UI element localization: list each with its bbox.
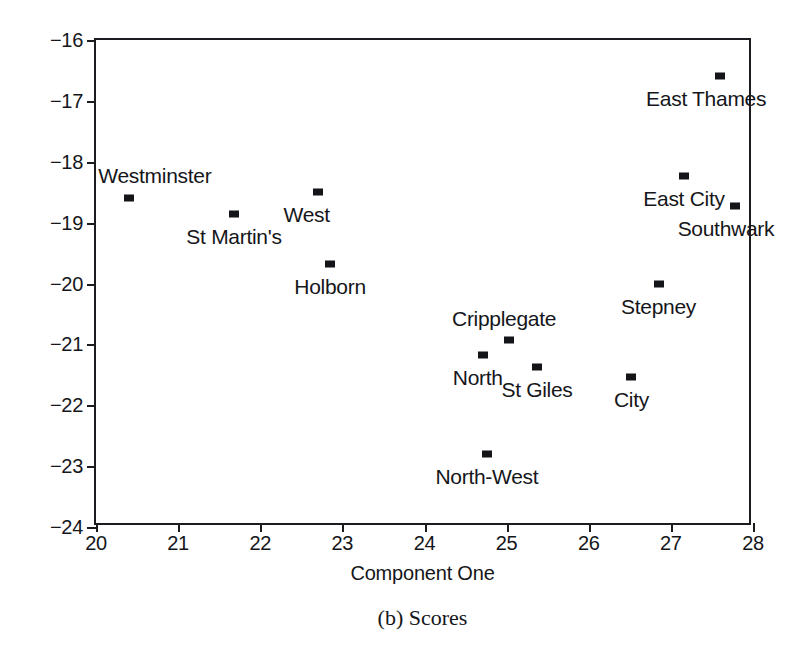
y-tick-label: −19: [50, 211, 83, 234]
y-tick-label: −21: [50, 333, 83, 356]
x-tick-label: 24: [414, 532, 436, 555]
data-point-label: St Giles: [501, 379, 572, 400]
data-point-marker: [313, 189, 323, 196]
y-tick-mark: [87, 405, 96, 407]
data-point-marker: [626, 373, 636, 380]
plot-area: −16−17−18−19−20−21−22−23−24 202122232425…: [94, 38, 751, 525]
data-point-label: City: [614, 389, 649, 410]
figure-caption: (b) Scores: [94, 605, 751, 631]
data-point-marker: [715, 72, 725, 79]
x-tick-mark: [589, 523, 591, 532]
x-tick-label: 21: [167, 532, 189, 555]
y-tick-mark: [87, 466, 96, 468]
x-tick-label: 25: [496, 532, 518, 555]
x-tick-mark: [260, 523, 262, 532]
y-tick-mark: [87, 284, 96, 286]
y-tick-mark: [87, 101, 96, 103]
y-tick-label: −23: [50, 455, 83, 478]
x-tick-mark: [671, 523, 673, 532]
data-point-label: Stepney: [621, 296, 696, 317]
y-tick-mark: [87, 223, 96, 225]
data-point-marker: [124, 194, 134, 201]
y-tick-mark: [87, 527, 96, 529]
y-tick-mark: [87, 344, 96, 346]
data-point-label: St Martin's: [186, 226, 281, 247]
x-axis-title: Component One: [94, 562, 751, 585]
y-tick-label: −18: [50, 150, 83, 173]
x-tick-label: 22: [249, 532, 271, 555]
x-tick-mark: [178, 523, 180, 532]
x-tick-label: 26: [578, 532, 600, 555]
data-point-label: Southwark: [678, 218, 775, 239]
data-point-label: West: [284, 204, 330, 225]
x-tick-mark: [753, 523, 755, 532]
x-tick-mark: [507, 523, 509, 532]
data-point-marker: [482, 450, 492, 457]
scatter-plot-figure: −16−17−18−19−20−21−22−23−24 202122232425…: [0, 0, 786, 655]
data-point-label: Holborn: [294, 276, 365, 297]
data-point-marker: [654, 281, 664, 288]
y-tick-label: −24: [50, 516, 83, 539]
x-tick-mark: [342, 523, 344, 532]
data-point-label: East City: [643, 188, 724, 209]
y-tick-mark: [87, 162, 96, 164]
data-point-label: Westminster: [98, 165, 211, 186]
y-tick-label: −20: [50, 272, 83, 295]
y-tick-label: −22: [50, 394, 83, 417]
x-tick-label: 23: [332, 532, 354, 555]
data-point-marker: [730, 203, 740, 210]
data-point-label: North: [453, 367, 503, 388]
x-tick-label: 20: [85, 532, 107, 555]
x-tick-mark: [425, 523, 427, 532]
data-point-label: Cripplegate: [452, 308, 556, 329]
data-point-marker: [532, 363, 542, 370]
data-point-marker: [325, 261, 335, 268]
data-point-marker: [504, 337, 514, 344]
y-tick-label: −16: [50, 29, 83, 52]
x-tick-label: 27: [660, 532, 682, 555]
x-tick-label: 28: [742, 532, 764, 555]
data-point-marker: [229, 211, 239, 218]
x-tick-mark: [96, 523, 98, 532]
data-point-label: North-West: [436, 466, 539, 487]
y-tick-label: −17: [50, 89, 83, 112]
data-point-marker: [679, 172, 689, 179]
data-point-label: East Thames: [646, 88, 766, 109]
data-point-marker: [478, 351, 488, 358]
y-tick-mark: [87, 40, 96, 42]
